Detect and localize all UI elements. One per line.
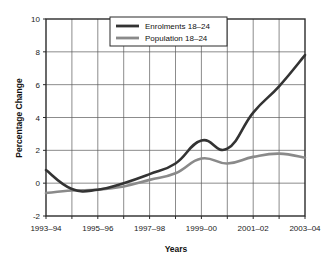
legend-label-population: Population 18–24 [145, 34, 208, 43]
x-tick-label: 2001–02 [238, 224, 270, 233]
x-axis-title: Years [165, 244, 188, 254]
grid-lines [46, 19, 305, 216]
x-axis-ticks: 1993–941995–961997–981999–002001–022003–… [30, 216, 321, 233]
line-chart: -20246810 1993–941995–961997–981999–0020… [0, 0, 329, 263]
y-axis-title: Percentage Change [14, 78, 24, 158]
x-tick-label: 1999–00 [186, 224, 218, 233]
y-axis-ticks: -20246810 [31, 15, 46, 221]
y-tick-label: 0 [36, 179, 41, 188]
y-tick-label: 4 [36, 114, 41, 123]
chart-container: -20246810 1993–941995–961997–981999–0020… [0, 0, 329, 263]
x-tick-label: 1997–98 [134, 224, 166, 233]
chart-legend: Enrolments 18–24 Population 18–24 [110, 17, 227, 46]
y-tick-label: 8 [36, 48, 41, 57]
y-tick-label: 10 [31, 15, 40, 24]
legend-label-enrolments: Enrolments 18–24 [145, 22, 210, 31]
y-tick-label: -2 [33, 212, 41, 221]
y-tick-label: 2 [36, 146, 41, 155]
x-tick-label: 2003–04 [289, 224, 321, 233]
x-tick-label: 1993–94 [30, 224, 62, 233]
y-tick-label: 6 [36, 81, 41, 90]
x-tick-label: 1995–96 [82, 224, 114, 233]
